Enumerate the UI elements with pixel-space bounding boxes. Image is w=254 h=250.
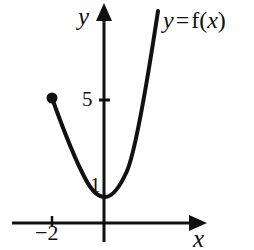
function-label-close-paren: ): [218, 7, 226, 33]
x-axis-label: x: [193, 226, 204, 250]
y-axis-arrow-icon: [96, 3, 112, 21]
function-graph-figure: y x 5 1 −2 y=f(x): [0, 0, 254, 250]
y-tick-label-1: 1: [90, 175, 101, 196]
function-label-open-paren: (: [199, 7, 207, 33]
graph-canvas: [0, 0, 254, 250]
curve-left-endpoint-dot: [47, 93, 58, 104]
function-label-equals: =: [174, 7, 192, 33]
x-tick-label-neg2: −2: [35, 222, 58, 244]
y-tick-label-5: 5: [82, 89, 93, 110]
function-label-x: x: [207, 7, 218, 33]
curve-function-label: y=f(x): [163, 8, 226, 32]
function-label-y: y: [163, 7, 174, 33]
y-axis-label: y: [78, 4, 89, 29]
function-label-f: f: [191, 7, 199, 33]
